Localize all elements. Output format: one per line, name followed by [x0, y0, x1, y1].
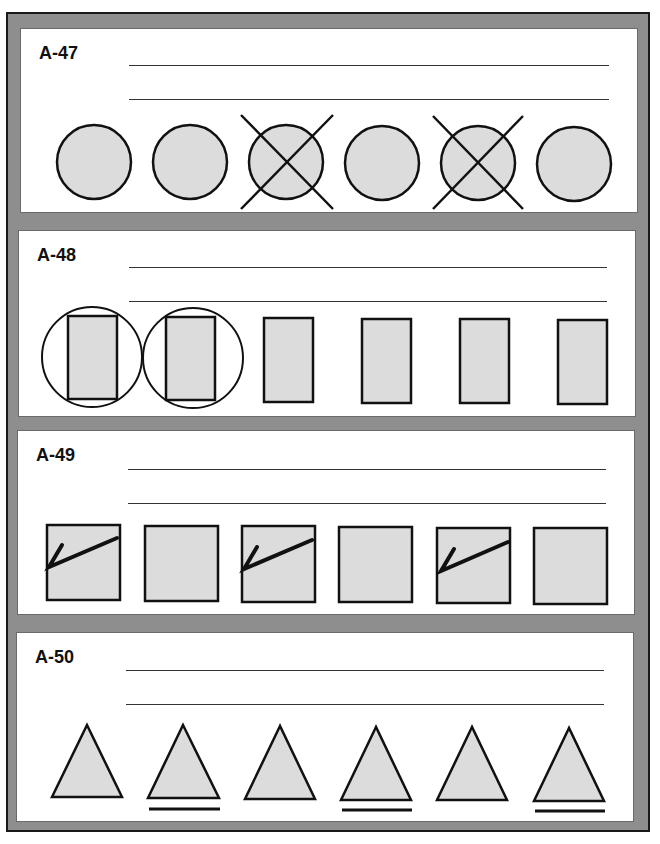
square-shape: [145, 526, 218, 601]
rectangle-row: [19, 231, 637, 418]
square-row: [18, 431, 636, 616]
panel-a49: A-49: [17, 430, 635, 615]
circle-shape: [537, 127, 611, 201]
triangle-shape: [437, 727, 507, 800]
rectangle-shape: [460, 319, 509, 403]
rectangle-shape: [362, 319, 411, 403]
circle-row: [21, 29, 639, 214]
circle-shape: [57, 125, 131, 199]
circle-shape: [153, 125, 227, 199]
square-shape: [437, 528, 510, 603]
triangle-shape: [534, 728, 604, 801]
triangle-row: [17, 633, 635, 823]
rectangle-shape: [264, 318, 313, 402]
square-shape: [339, 527, 412, 602]
panel-a47: A-47: [20, 28, 638, 213]
rectangle-shape: [166, 317, 215, 400]
panel-a50: A-50: [16, 632, 634, 822]
triangle-shape: [341, 727, 411, 800]
rectangle-shape: [558, 320, 607, 404]
triangle-shape: [52, 725, 122, 797]
circle-shape: [345, 126, 419, 200]
triangle-shape: [148, 725, 219, 798]
square-shape: [534, 528, 607, 604]
rectangle-shape: [68, 316, 117, 399]
panel-a48: A-48: [18, 230, 636, 417]
triangle-shape: [245, 726, 315, 799]
